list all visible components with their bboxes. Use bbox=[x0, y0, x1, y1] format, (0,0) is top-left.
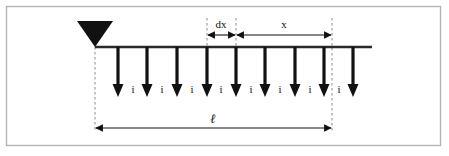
infiltration-label: i bbox=[249, 83, 252, 95]
seepage-diagram: dx x ℓ i i i i i i i i bbox=[0, 0, 449, 156]
figure-container: dx x ℓ i i i i i i i i bbox=[0, 0, 449, 156]
dimension-dx-label: dx bbox=[216, 18, 228, 30]
infiltration-label: i bbox=[219, 83, 222, 95]
infiltration-label: i bbox=[160, 83, 163, 95]
infiltration-label: i bbox=[308, 83, 311, 95]
dimension-ell-label: ℓ bbox=[210, 111, 216, 126]
infiltration-label: i bbox=[190, 83, 193, 95]
infiltration-label: i bbox=[278, 83, 281, 95]
dimension-x-label: x bbox=[281, 18, 287, 30]
infiltration-label: i bbox=[131, 83, 134, 95]
infiltration-label: i bbox=[337, 83, 340, 95]
